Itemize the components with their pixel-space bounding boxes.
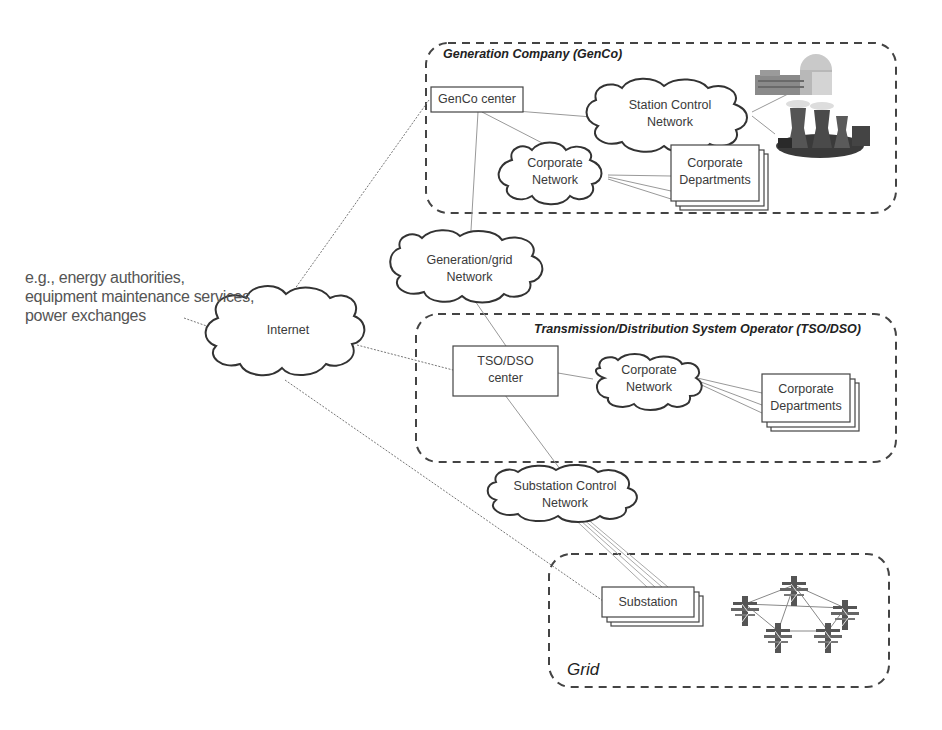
link-station-plant2 bbox=[752, 116, 775, 134]
transmission-pylon-icon bbox=[831, 600, 859, 630]
tso-domain-title: Transmission/Distribution System Operato… bbox=[534, 322, 861, 336]
link-tso-corpnet bbox=[558, 373, 593, 379]
tso-corporate-network-label: Corporate Network bbox=[604, 362, 694, 396]
station-control-line1: Station Control bbox=[610, 97, 730, 114]
subctl-line2: Network bbox=[500, 495, 630, 512]
nuclear-plant-icon bbox=[755, 54, 832, 95]
link-genco-gengrid bbox=[470, 112, 478, 247]
genco-center-label: GenCo center bbox=[431, 91, 523, 108]
internet-label: Internet bbox=[238, 322, 338, 339]
station-control-network-label: Station Control Network bbox=[610, 97, 730, 131]
generation-grid-network-label: Generation/grid Network bbox=[412, 252, 527, 286]
genco-corporate-departments-label: Corporate Departments bbox=[671, 155, 759, 189]
tso-center-line1: TSO/DSO bbox=[453, 353, 558, 370]
subctl-line1: Substation Control bbox=[500, 478, 630, 495]
tso-depts-line2: Departments bbox=[762, 398, 850, 415]
note-line-3: power exchanges bbox=[25, 306, 254, 325]
link-subctl-substation-4 bbox=[579, 512, 668, 587]
note-line-1: e.g., energy authorities, bbox=[25, 268, 254, 287]
station-control-line2: Network bbox=[610, 114, 730, 131]
link-gengrid-tso bbox=[473, 298, 506, 346]
network-diagram: e.g., energy authorities, equipment main… bbox=[0, 0, 942, 730]
tso-corpnet-line1: Corporate bbox=[604, 362, 694, 379]
link-tsocorp-depts-1 bbox=[693, 377, 762, 393]
link-subctl-substation-1 bbox=[567, 512, 647, 587]
genco-corporate-network-label: Corporate Network bbox=[510, 155, 600, 189]
substation-control-network-label: Substation Control Network bbox=[500, 478, 630, 512]
genco-corpnet-line2: Network bbox=[510, 172, 600, 189]
gengrid-line2: Network bbox=[412, 269, 527, 286]
note-line-2: equipment maintenance services, bbox=[25, 287, 254, 306]
link-subctl-substation-2 bbox=[571, 512, 655, 587]
link-internet-tso bbox=[357, 345, 453, 370]
link-subctl-substation-3 bbox=[575, 512, 662, 587]
link-genco-corpnet bbox=[482, 112, 548, 146]
link-tsocorp-depts-2 bbox=[693, 379, 762, 405]
link-corpnet-depts-1 bbox=[608, 175, 671, 176]
grid-domain-title: Grid bbox=[567, 660, 599, 680]
transmission-pylon-icon bbox=[780, 576, 808, 606]
external-parties-note: e.g., energy authorities, equipment main… bbox=[25, 268, 254, 325]
gengrid-line1: Generation/grid bbox=[412, 252, 527, 269]
tso-center-label: TSO/DSO center bbox=[453, 353, 558, 387]
grid-domain-box bbox=[549, 554, 889, 687]
tso-corporate-departments-label: Corporate Departments bbox=[762, 381, 850, 415]
genco-depts-line2: Departments bbox=[671, 172, 759, 189]
tso-corpnet-line2: Network bbox=[604, 379, 694, 396]
genco-corpnet-line1: Corporate bbox=[510, 155, 600, 172]
tso-depts-line1: Corporate bbox=[762, 381, 850, 398]
transmission-pylon-icon bbox=[814, 623, 842, 653]
tso-center-line2: center bbox=[453, 370, 558, 387]
substation-label: Substation bbox=[602, 594, 694, 611]
genco-domain-title: Generation Company (GenCo) bbox=[443, 47, 622, 61]
genco-depts-line1: Corporate bbox=[671, 155, 759, 172]
transmission-network bbox=[731, 576, 859, 653]
cooling-tower-plant-icon bbox=[776, 100, 870, 158]
transmission-pylon-icon bbox=[764, 623, 792, 653]
link-tsocorp-depts-3 bbox=[693, 381, 762, 413]
